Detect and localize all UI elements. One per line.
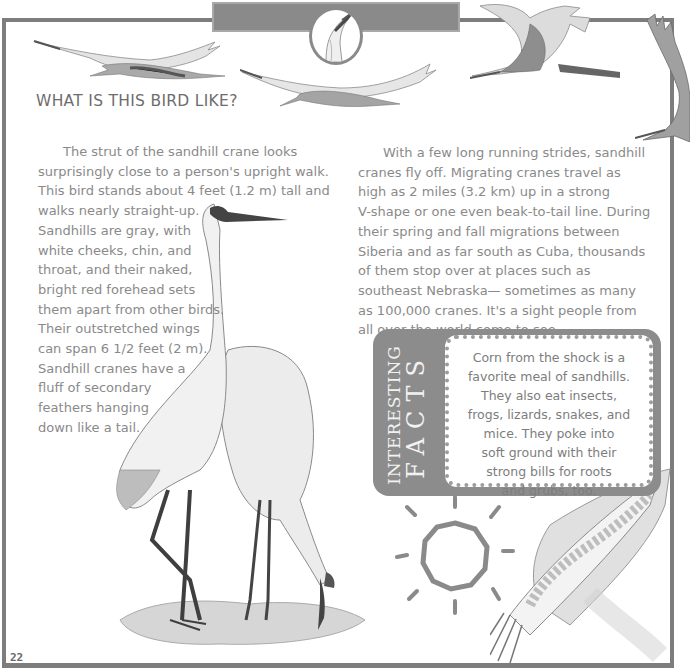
page-number: 22 <box>10 651 23 664</box>
text-line: mice. They poke into <box>449 424 649 443</box>
text-line: down like a tail. <box>38 418 330 438</box>
text-line: soft ground with their <box>449 443 649 462</box>
text-line: high as 2 miles (3.2 km) up in a strong <box>358 182 650 202</box>
text-line: This bird stands about 4 feet (1.2 m) ta… <box>38 181 330 201</box>
interesting-facts-text: Corn from the shock is a favorite meal o… <box>445 335 653 487</box>
text-line: Their outstretched wings <box>38 319 330 339</box>
text-line: frogs, lizards, snakes, and <box>449 405 649 424</box>
flying-crane-1-icon <box>30 36 225 86</box>
text-line: southeast Nebraska— sometimes as many <box>358 281 650 301</box>
text-line: bright red forehead sets <box>38 280 330 300</box>
flying-crane-2-icon <box>240 60 440 115</box>
text-line: them apart from other birds. <box>38 300 330 320</box>
left-column-paragraph: The strut of the sandhill crane looks su… <box>38 142 330 438</box>
text-line: Sandhills are gray, with <box>38 221 330 241</box>
text-line: They also eat insects, <box>449 386 649 405</box>
text-line: favorite meal of sandhills. <box>449 367 649 386</box>
text-line: V-shape or one even beak-to-tail line. D… <box>358 202 650 222</box>
text-line: fluff of secondary <box>38 378 330 398</box>
text-line: Siberia and as far south as Cuba, thousa… <box>358 242 650 262</box>
text-line: Sandhill cranes have a <box>38 359 330 379</box>
text-line: With a few long running strides, sandhil… <box>358 143 650 163</box>
flying-crane-3-icon <box>470 2 630 82</box>
text-line: cranes fly off. Migrating cranes travel … <box>358 163 650 183</box>
text-line: and grubs, too. <box>449 481 649 500</box>
interesting-facts-box: INTERESTING FACTS Corn from the shock is… <box>373 329 661 496</box>
text-line: can span 6 1/2 feet (2 m). <box>38 339 330 359</box>
text-line: strong bills for roots <box>449 462 649 481</box>
text-line: Corn from the shock is a <box>449 348 649 367</box>
crane-head-portrait <box>309 7 363 65</box>
text-line: throat, and their naked, <box>38 260 330 280</box>
text-line: walks nearly straight-up. <box>38 201 330 221</box>
text-line: feathers hanging <box>38 398 330 418</box>
flying-crane-4-icon <box>635 12 690 142</box>
facts-label-line1: INTERESTING <box>384 345 404 485</box>
text-line: their spring and fall migrations between <box>358 222 650 242</box>
text-line: The strut of the sandhill crane looks <box>38 142 330 162</box>
text-line: surprisingly close to a person's upright… <box>38 162 330 182</box>
right-column-paragraph: With a few long running strides, sandhil… <box>358 143 650 340</box>
text-line: white cheeks, chin, and <box>38 241 330 261</box>
interesting-facts-label: INTERESTING FACTS <box>373 329 439 496</box>
text-line: of them stop over at places such as <box>358 261 650 281</box>
section-heading: WHAT IS THIS BIRD LIKE? <box>36 92 238 110</box>
facts-label-line2: FACTS <box>404 345 428 485</box>
text-line: as 100,000 cranes. It's a sight people f… <box>358 301 650 321</box>
